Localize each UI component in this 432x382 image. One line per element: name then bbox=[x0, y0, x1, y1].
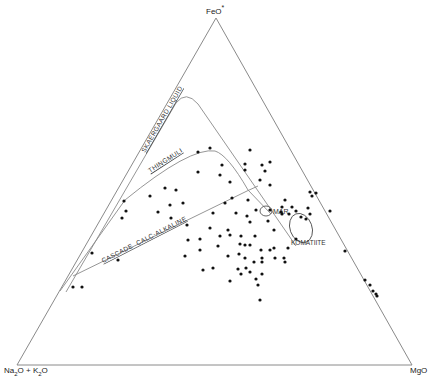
data-point bbox=[310, 194, 313, 197]
feo-text: FeO bbox=[206, 7, 222, 16]
data-point bbox=[260, 272, 263, 275]
skaergaard-liquid-label: SKAERGAARD LIQUID bbox=[140, 85, 185, 154]
cascade-calc-alkaline-label: CASCADE CALC-ALKALINE bbox=[100, 215, 188, 264]
data-point bbox=[368, 283, 371, 286]
vertex-label-mgo: MgO bbox=[410, 366, 427, 375]
data-point bbox=[248, 270, 251, 273]
data-point bbox=[268, 248, 271, 251]
data-point bbox=[239, 272, 242, 275]
data-point bbox=[304, 217, 307, 220]
na-text: Na bbox=[4, 366, 14, 375]
data-point bbox=[163, 186, 166, 189]
data-point bbox=[223, 201, 226, 204]
mgo-text: MgO bbox=[410, 366, 427, 375]
data-point bbox=[268, 160, 271, 163]
afm-ternary-diagram: SKAERGAARD LIQUID THINGMULI CASCADE CALC… bbox=[0, 0, 432, 382]
data-point bbox=[226, 254, 229, 257]
o-plus-k-text: O + K bbox=[18, 366, 39, 375]
data-point bbox=[328, 209, 331, 212]
data-point bbox=[260, 256, 263, 259]
data-point bbox=[116, 258, 119, 261]
data-point bbox=[287, 212, 290, 215]
data-point bbox=[239, 234, 242, 237]
vertex-label-na2o-k2o: Na2O + K2O bbox=[4, 366, 48, 377]
data-point bbox=[259, 248, 262, 251]
feo-star: * bbox=[222, 4, 225, 11]
data-point bbox=[120, 216, 123, 219]
data-point bbox=[272, 246, 275, 249]
data-point bbox=[183, 254, 186, 257]
data-point bbox=[256, 283, 259, 286]
data-point bbox=[237, 252, 240, 255]
data-point bbox=[282, 256, 285, 259]
data-point bbox=[260, 163, 263, 166]
data-point bbox=[124, 209, 127, 212]
data-point bbox=[273, 256, 276, 259]
ternary-triangle bbox=[17, 18, 412, 365]
data-point bbox=[228, 180, 231, 183]
data-point bbox=[236, 267, 239, 270]
data-point bbox=[208, 146, 211, 149]
data-point bbox=[252, 260, 255, 263]
data-point bbox=[174, 188, 177, 191]
data-point bbox=[218, 173, 221, 176]
data-point bbox=[228, 233, 231, 236]
data-point bbox=[272, 228, 275, 231]
data-point bbox=[220, 163, 223, 166]
data-point bbox=[196, 170, 199, 173]
data-point bbox=[279, 210, 282, 213]
data-point bbox=[248, 243, 251, 246]
data-point bbox=[258, 178, 261, 181]
data-point bbox=[246, 198, 249, 201]
data-point bbox=[371, 289, 374, 292]
data-point bbox=[71, 285, 74, 288]
data-point bbox=[238, 242, 241, 245]
data-point bbox=[168, 203, 171, 206]
data-point bbox=[308, 190, 311, 193]
data-point bbox=[253, 234, 256, 237]
data-point bbox=[186, 238, 189, 241]
data-point bbox=[208, 226, 211, 229]
data-point bbox=[185, 223, 188, 226]
data-point bbox=[266, 219, 269, 222]
data-point bbox=[280, 205, 283, 208]
thingmuli-curve bbox=[60, 151, 271, 291]
data-point bbox=[343, 249, 346, 252]
data-point bbox=[308, 212, 311, 215]
data-point bbox=[216, 244, 219, 247]
data-point bbox=[299, 215, 302, 218]
data-point bbox=[230, 196, 233, 199]
data-point bbox=[263, 169, 266, 172]
data-point bbox=[260, 260, 263, 263]
data-point bbox=[228, 279, 231, 282]
data-point bbox=[254, 277, 257, 280]
data-point bbox=[375, 294, 378, 297]
data-point bbox=[286, 246, 289, 249]
data-point bbox=[218, 234, 221, 237]
vertex-label-feo: FeO* bbox=[206, 4, 224, 16]
data-point bbox=[211, 211, 214, 214]
data-point bbox=[181, 201, 184, 204]
data-point bbox=[363, 278, 366, 281]
data-point bbox=[90, 251, 93, 254]
o-text: O bbox=[42, 366, 48, 375]
data-point bbox=[169, 216, 172, 219]
data-point bbox=[122, 199, 125, 202]
data-point bbox=[234, 211, 237, 214]
data-point bbox=[248, 220, 251, 223]
data-point bbox=[268, 208, 271, 211]
data-point bbox=[306, 206, 309, 209]
data-point bbox=[245, 214, 248, 217]
data-point bbox=[156, 210, 159, 213]
data-point bbox=[268, 183, 271, 186]
data-point bbox=[294, 237, 297, 240]
data-point bbox=[226, 228, 229, 231]
data-point bbox=[80, 285, 83, 288]
data-point bbox=[243, 243, 246, 246]
data-point bbox=[198, 237, 201, 240]
data-point bbox=[290, 205, 293, 208]
data-point bbox=[201, 268, 204, 271]
data-point bbox=[254, 208, 257, 211]
data-point bbox=[198, 248, 201, 251]
data-point bbox=[248, 148, 251, 151]
